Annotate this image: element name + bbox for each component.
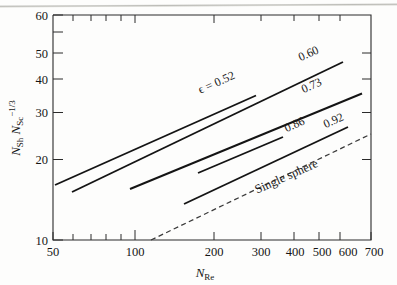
curve-label-single-sphere: Single sphere: [253, 156, 321, 197]
x-tick-label-300: 300: [252, 245, 271, 259]
x-axis-title-sub: Re: [204, 272, 214, 282]
curve-label-092: 0.92: [321, 110, 346, 131]
x-tick-label-50: 50: [47, 245, 60, 259]
y-tick-label-10: 10: [36, 234, 49, 248]
curve-eps-052: [55, 96, 256, 186]
y-tick-label-50: 50: [36, 47, 49, 61]
x-tick-label-600: 600: [339, 245, 358, 259]
x-tick-label-100: 100: [126, 245, 145, 259]
figure-container: 50 100 200 300 400 500 600 700 10 20 30 …: [0, 0, 397, 285]
y-tick-label-30: 30: [36, 106, 49, 120]
curve-label-060: 0.60: [296, 43, 321, 64]
y-tick-label-20: 20: [36, 153, 49, 167]
x-tick-label-500: 500: [313, 245, 332, 259]
y-axis-ticks: [53, 15, 63, 240]
curve-label-073: 0.73: [299, 75, 324, 96]
x-axis-title: NRe: [195, 265, 215, 282]
chart-canvas: 50 100 200 300 400 500 600 700 10 20 30 …: [0, 0, 397, 285]
x-tick-label-400: 400: [286, 245, 305, 259]
x-tick-label-700: 700: [365, 245, 384, 259]
svg-text:NRe: NRe: [195, 265, 215, 282]
x-axis-ticks: [53, 230, 371, 240]
curve-label-eps-052: ϵ = 0.52: [196, 68, 237, 96]
x-tick-label-200: 200: [205, 245, 224, 259]
svg-text:NSh NSc−1/3: NSh NSc−1/3: [7, 100, 25, 157]
y-axis-title-sup2: −1/3: [7, 100, 17, 117]
y-axis-title-sub1: Sh: [15, 137, 25, 147]
y-tick-labels: 10 20 30 40 50 60: [36, 9, 49, 248]
plot-frame: [53, 15, 371, 240]
x-tick-labels: 50 100 200 300 400 500 600 700: [47, 245, 384, 259]
y-axis-title-sub2: Sc: [15, 117, 25, 126]
x-axis-ticks-top: [73, 15, 340, 23]
y-tick-label-40: 40: [36, 73, 49, 87]
y-tick-label-60: 60: [36, 9, 49, 23]
curve-labels: ϵ = 0.52 0.60 0.73 0.86 0.92 Single sphe…: [196, 43, 346, 197]
y-axis-ticks-right: [362, 53, 371, 160]
y-axis-title: NSh NSc−1/3: [7, 100, 25, 157]
